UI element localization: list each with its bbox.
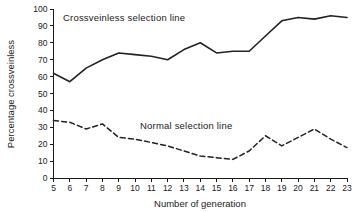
y-tick-label: 90 xyxy=(38,21,48,31)
x-axis-title: Number of generation xyxy=(154,198,246,209)
y-tick-label: 20 xyxy=(38,139,48,149)
x-axis-ticks: 567891011121314151617181920212223 xyxy=(51,178,352,193)
y-axis-title: Percentage crossveinless xyxy=(5,40,16,148)
x-tick-label: 5 xyxy=(51,183,56,193)
y-tick-label: 10 xyxy=(38,156,48,166)
x-tick-label: 8 xyxy=(100,183,105,193)
x-tick-label: 17 xyxy=(244,183,254,193)
x-tick-label: 20 xyxy=(293,183,303,193)
y-tick-label: 80 xyxy=(38,38,48,48)
x-tick-label: 22 xyxy=(326,183,336,193)
x-tick-label: 21 xyxy=(310,183,320,193)
y-tick-label: 70 xyxy=(38,55,48,65)
y-tick-label: 50 xyxy=(38,89,48,99)
x-tick-label: 7 xyxy=(84,183,89,193)
x-tick-label: 9 xyxy=(116,183,121,193)
annotation-crossveinless-selection-line: Crossveinless selection line xyxy=(63,12,185,23)
y-tick-label: 40 xyxy=(38,105,48,115)
x-tick-label: 12 xyxy=(163,183,173,193)
y-tick-label: 30 xyxy=(38,122,48,132)
line-chart: 0102030405060708090100 56789101112131415… xyxy=(0,0,355,212)
x-tick-label: 6 xyxy=(67,183,72,193)
x-tick-label: 10 xyxy=(130,183,140,193)
chart-container: 0102030405060708090100 56789101112131415… xyxy=(0,0,355,212)
x-tick-label: 16 xyxy=(228,183,238,193)
x-tick-label: 13 xyxy=(179,183,189,193)
y-tick-label: 60 xyxy=(38,72,48,82)
y-tick-label: 100 xyxy=(33,4,47,14)
y-tick-label: 0 xyxy=(43,173,48,183)
x-tick-label: 14 xyxy=(196,183,206,193)
series-line-crossveinless xyxy=(54,16,348,82)
y-axis-ticks: 0102030405060708090100 xyxy=(33,4,53,183)
annotation-normal-selection-line: Normal selection line xyxy=(140,120,232,131)
x-tick-label: 19 xyxy=(277,183,287,193)
x-tick-label: 15 xyxy=(212,183,222,193)
x-tick-label: 18 xyxy=(261,183,271,193)
x-tick-label: 23 xyxy=(342,183,352,193)
x-tick-label: 11 xyxy=(147,183,156,193)
